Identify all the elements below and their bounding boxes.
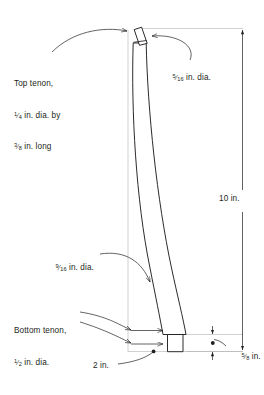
thickness-unit: in. [249, 352, 260, 361]
bottom-tenon-line2: 1⁄2 in. dia. [14, 358, 66, 369]
top-tenon-dia-unit: in. dia. by [22, 111, 61, 120]
thickness-dimension-label: 5⁄8 in. [232, 341, 261, 373]
height-dimension-label: 10 in. [219, 194, 240, 205]
top-tenon-len-unit: in. long [22, 142, 52, 151]
top-tenon-line1: Top tenon, [14, 79, 60, 90]
technical-drawing-page: Top tenon, 1⁄4 in. dia. by 3⁄8 in. long … [0, 0, 264, 395]
width-dimension-label: 2 in. [93, 361, 109, 372]
mid-diameter-annotation: 9⁄16 in. dia. [46, 252, 94, 284]
top-tenon-line3: 3⁄8 in. long [14, 142, 60, 153]
mid-diameter-leader [100, 253, 150, 282]
upper-dia-unit: in. dia. [184, 73, 211, 82]
top-tenon-line2: 1⁄4 in. dia. by [14, 111, 60, 122]
bottom-tenon-leaders [80, 312, 163, 344]
upper-diameter-annotation: 5⁄16 in. dia. [163, 62, 211, 94]
bottom-tenon-annotation: Bottom tenon, 1⁄2 in. dia. [14, 305, 66, 389]
top-tenon-annotation: Top tenon, 1⁄4 in. dia. by 3⁄8 in. long [14, 58, 60, 174]
top-tenon-leader [52, 29, 127, 52]
mid-dia-unit: in. dia. [67, 263, 94, 272]
bottom-tenon-dia-unit: in. dia. [22, 358, 49, 367]
thickness-dimension-line [211, 326, 226, 360]
upper-diameter-leader [152, 36, 191, 60]
bottom-tenon-shape [168, 335, 184, 352]
bottom-tenon-line1: Bottom tenon, [14, 326, 66, 337]
